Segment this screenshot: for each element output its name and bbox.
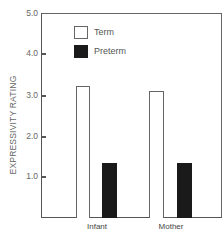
y-tick — [41, 95, 46, 97]
category-label-mother: Mother — [146, 222, 196, 231]
category-label-infant: Infant — [72, 222, 122, 231]
legend-label-preterm: Preterm — [94, 46, 126, 56]
bar-infant-preterm — [102, 163, 117, 218]
plot-frame — [41, 13, 222, 218]
bar-mother-preterm — [177, 163, 192, 218]
y-tick-label: 2.0 — [12, 131, 38, 141]
legend-swatch-preterm — [74, 45, 88, 58]
y-tick-label: 3.0 — [12, 90, 38, 100]
y-tick — [41, 176, 46, 178]
bar-mother-term — [149, 91, 164, 218]
bar-infant-term — [76, 86, 90, 218]
y-tick — [41, 53, 46, 55]
y-tick — [41, 136, 46, 138]
y-tick-label: 5.0 — [12, 8, 38, 18]
y-tick-label: 4.0 — [12, 48, 38, 58]
legend-swatch-term — [74, 26, 88, 39]
y-tick-label: 1.0 — [12, 171, 38, 181]
legend-label-term: Term — [94, 27, 114, 37]
